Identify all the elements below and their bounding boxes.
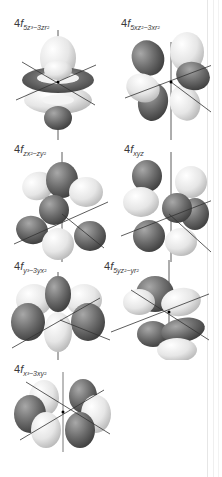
page-edge-line	[213, 0, 214, 477]
orbital-zx2-zy2-diagram	[0, 152, 111, 262]
page-edge-line	[218, 0, 219, 477]
orbital-5yz2-yr2-diagram	[111, 260, 211, 360]
orbital-5z3-3zr2-diagram	[0, 30, 111, 140]
orbital-xyz-diagram	[111, 152, 211, 262]
orbital-x3-3xy2-diagram	[0, 372, 111, 462]
orbital-5xz2-3xr2-diagram	[111, 30, 211, 140]
orbital-y3-3yx2-diagram	[0, 270, 111, 360]
